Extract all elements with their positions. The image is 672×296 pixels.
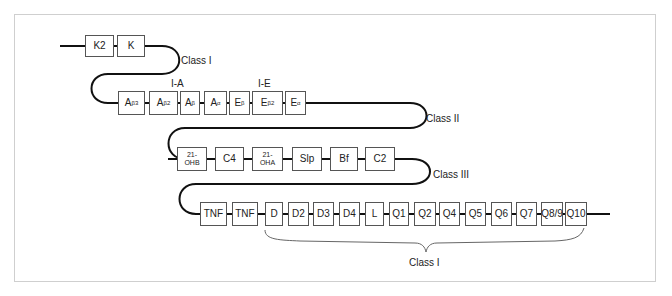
gene-label: A bbox=[125, 98, 132, 108]
gene-D3: D3 bbox=[313, 202, 334, 226]
gene-label: D bbox=[270, 209, 277, 219]
gene-21-OHB: 21-OHB bbox=[177, 147, 207, 171]
class-i-label-top: Class I bbox=[181, 55, 212, 66]
gene-K: K bbox=[117, 35, 145, 57]
gene-subscript: α bbox=[297, 100, 300, 106]
gene-label-line2: OHA bbox=[260, 159, 275, 167]
gene-TNF-2: TNF bbox=[232, 202, 258, 226]
gene-subscript: β2 bbox=[163, 100, 170, 106]
gene-Ab3: Aβ3 bbox=[118, 91, 145, 115]
gene-Ab2: Aβ2 bbox=[149, 91, 178, 115]
gene-label: L bbox=[372, 209, 378, 219]
gene-C2: C2 bbox=[365, 147, 395, 171]
gene-label: TNF bbox=[235, 209, 254, 219]
gene-D2: D2 bbox=[288, 202, 309, 226]
gene-label: K bbox=[128, 41, 135, 51]
gene-label-line1: 21- bbox=[260, 151, 275, 159]
gene-TNF-1: TNF bbox=[200, 202, 227, 226]
gene-label: C4 bbox=[223, 154, 236, 164]
gene-subscript: α bbox=[217, 100, 220, 106]
gene-label: A bbox=[157, 98, 164, 108]
gene-label-line1: 21- bbox=[184, 151, 199, 159]
gene-label: Q1 bbox=[392, 209, 405, 219]
gene-label: E bbox=[234, 98, 241, 108]
gene-label: Q4 bbox=[443, 209, 456, 219]
gene-Q1: Q1 bbox=[389, 202, 409, 226]
gene-Q8-9: Q8/9 bbox=[541, 202, 563, 226]
gene-Q6: Q6 bbox=[491, 202, 512, 226]
gene-label: Q6 bbox=[495, 209, 508, 219]
class-i-label-bottom: Class I bbox=[409, 257, 440, 268]
gene-label: E bbox=[261, 98, 268, 108]
gene-label: D3 bbox=[317, 209, 330, 219]
gene-label: K2 bbox=[93, 41, 105, 51]
gene-Bf: Bf bbox=[330, 147, 358, 171]
gene-label: A bbox=[185, 98, 192, 108]
gene-label: Q8/9 bbox=[541, 209, 563, 219]
gene-Q4: Q4 bbox=[439, 202, 460, 226]
gene-K2: K2 bbox=[85, 35, 114, 57]
gene-Eb2: Eβ2 bbox=[252, 91, 283, 115]
gene-D4: D4 bbox=[339, 202, 360, 226]
gene-L: L bbox=[365, 202, 384, 226]
class-i-brace bbox=[265, 228, 584, 252]
gene-21-OHA: 21-OHA bbox=[252, 147, 283, 171]
gene-label: C2 bbox=[374, 154, 387, 164]
class-ii-label: Class II bbox=[426, 113, 459, 124]
gene-label: Q10 bbox=[567, 209, 586, 219]
gene-label: Q2 bbox=[418, 209, 431, 219]
gene-subscript: β3 bbox=[131, 100, 138, 106]
gene-label: E bbox=[290, 98, 297, 108]
group-label-I-A: I-A bbox=[171, 78, 184, 89]
gene-Q5: Q5 bbox=[465, 202, 486, 226]
gene-C4: C4 bbox=[215, 147, 244, 171]
gene-Eb: Eβ bbox=[229, 91, 250, 115]
gene-Ab: Aβ bbox=[180, 91, 200, 115]
gene-Q2: Q2 bbox=[414, 202, 436, 226]
gene-D: D bbox=[265, 202, 283, 226]
gene-Q10: Q10 bbox=[565, 202, 587, 226]
gene-label: Q5 bbox=[469, 209, 482, 219]
gene-subscript: β bbox=[241, 100, 244, 106]
gene-Slp: Slp bbox=[292, 147, 322, 171]
gene-Aa: Aα bbox=[204, 91, 227, 115]
class-iii-label: Class III bbox=[433, 169, 469, 180]
gene-label: Bf bbox=[339, 154, 348, 164]
gene-label: TNF bbox=[204, 209, 223, 219]
gene-Q7: Q7 bbox=[516, 202, 537, 226]
gene-label-line2: OHB bbox=[184, 159, 199, 167]
gene-label: Q7 bbox=[520, 209, 533, 219]
gene-label: Slp bbox=[300, 154, 314, 164]
gene-label: D4 bbox=[343, 209, 356, 219]
gene-Ea: Eα bbox=[285, 91, 306, 115]
gene-subscript: β bbox=[192, 100, 195, 106]
gene-label: D2 bbox=[292, 209, 305, 219]
gene-subscript: β2 bbox=[267, 100, 274, 106]
group-label-I-E: I-E bbox=[258, 78, 271, 89]
gene-label: A bbox=[210, 98, 217, 108]
